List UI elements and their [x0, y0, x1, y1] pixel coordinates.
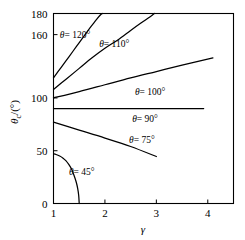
curve-series-6 — [54, 14, 103, 78]
x-tick-label-1: 1 — [51, 207, 57, 219]
figure-container: 1234050100160180 θ= 45°θ= 75°θ= 90°θ= 10… — [0, 0, 245, 240]
svg-text:θc/(°): θc/(°) — [8, 100, 23, 124]
curve-label-4: θ= 100° — [135, 87, 166, 97]
curve-series-5 — [54, 14, 155, 90]
curve-label-6: θ= 120° — [60, 30, 91, 40]
y-tick-label-100: 100 — [31, 92, 48, 104]
curve-label-1: θ= 45° — [69, 167, 95, 177]
y-tick-label-50: 50 — [37, 145, 49, 157]
curve-series-4 — [54, 58, 213, 98]
curve-label-2: θ= 75° — [129, 135, 155, 145]
theta-c-vs-gamma-chart: 1234050100160180 θ= 45°θ= 75°θ= 90°θ= 10… — [0, 0, 245, 240]
y-axis-title: θc/(°) — [8, 100, 23, 124]
x-tick-label-3: 3 — [154, 207, 160, 219]
y-tick-label-160: 160 — [31, 29, 48, 41]
curve-series-1 — [54, 154, 80, 204]
curve-label-3: θ= 90° — [132, 114, 158, 124]
x-tick-label-4: 4 — [205, 207, 211, 219]
y-tick-label-180: 180 — [31, 8, 48, 20]
x-axis-title: γ — [141, 223, 146, 235]
curve-annotation-group: θ= 45°θ= 75°θ= 90°θ= 100°θ= 110°θ= 120° — [60, 30, 166, 177]
x-tick-label-2: 2 — [102, 207, 108, 219]
curve-label-5: θ= 110° — [99, 39, 129, 49]
y-tick-label-0: 0 — [42, 198, 48, 210]
